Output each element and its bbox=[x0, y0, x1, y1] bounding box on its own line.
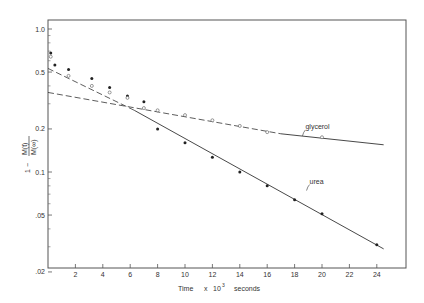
x-tick-label: 10 bbox=[181, 271, 189, 278]
x-label-exp: 3 bbox=[222, 282, 225, 288]
x-label-unit: seconds bbox=[234, 285, 261, 292]
x-tick-label: 18 bbox=[291, 271, 299, 278]
data-point bbox=[184, 114, 187, 117]
series-urea bbox=[48, 51, 384, 248]
data-point bbox=[53, 64, 56, 67]
series-glycerol bbox=[48, 55, 384, 145]
data-point bbox=[184, 141, 187, 144]
data-point bbox=[321, 136, 324, 139]
y-label-num: M(t) bbox=[21, 143, 29, 155]
data-point bbox=[156, 109, 159, 112]
x-tick-label: 12 bbox=[209, 271, 217, 278]
y-tick-label: .02 bbox=[35, 268, 45, 275]
x-tick-label: 2 bbox=[73, 271, 77, 278]
data-point bbox=[142, 100, 145, 103]
data-point bbox=[142, 107, 145, 110]
data-point bbox=[67, 74, 70, 77]
data-point bbox=[211, 156, 214, 159]
x-tick-label: 8 bbox=[156, 271, 160, 278]
y-tick-label: 0.1 bbox=[35, 169, 45, 176]
x-tick-label: 14 bbox=[236, 271, 244, 278]
data-point bbox=[156, 127, 159, 130]
data-series bbox=[48, 51, 384, 248]
x-tick-label: 4 bbox=[101, 271, 105, 278]
x-tick-label: 22 bbox=[346, 271, 354, 278]
data-point bbox=[90, 84, 93, 87]
data-point bbox=[238, 124, 241, 127]
chart: 24681012141618202224 1.00.50.20.1.05.02 … bbox=[0, 0, 424, 303]
y-label-den: M(∞) bbox=[30, 140, 38, 155]
data-point bbox=[67, 68, 70, 71]
annotation-urea: urea bbox=[310, 178, 324, 185]
data-point bbox=[321, 212, 324, 215]
x-tick-label: 16 bbox=[263, 271, 271, 278]
x-tick-label: 6 bbox=[128, 271, 132, 278]
y-axis-ticks: 1.00.50.20.1.05.02 bbox=[35, 26, 52, 276]
data-point bbox=[375, 243, 378, 246]
data-point bbox=[108, 86, 111, 89]
x-axis-ticks: 24681012141618202224 bbox=[73, 264, 380, 278]
y-tick-label: .05 bbox=[35, 212, 45, 219]
y-tick-label: 0.2 bbox=[35, 125, 45, 132]
x-tick-label: 24 bbox=[373, 271, 381, 278]
data-point bbox=[126, 96, 129, 99]
y-label-prefix: 1 − bbox=[24, 163, 31, 173]
data-point bbox=[266, 131, 269, 134]
data-point bbox=[211, 119, 214, 122]
y-tick-label: 1.0 bbox=[35, 26, 45, 33]
data-point bbox=[49, 55, 52, 58]
data-point bbox=[293, 198, 296, 201]
data-point bbox=[238, 171, 241, 174]
x-label-mult: x bbox=[204, 285, 208, 292]
x-axis-label: Time x 10 3 seconds bbox=[178, 282, 261, 292]
data-point bbox=[90, 77, 93, 80]
annotations: glycerolurea bbox=[302, 123, 330, 191]
plot-frame bbox=[48, 20, 406, 268]
data-point bbox=[49, 51, 52, 54]
x-label-main: Time bbox=[178, 285, 193, 292]
y-tick-label: 0.5 bbox=[35, 69, 45, 76]
y-axis-label: 1 − M(t) M(∞) bbox=[21, 136, 38, 173]
data-point bbox=[108, 91, 111, 94]
x-label-base: 10 bbox=[213, 285, 221, 292]
annotation-glycerol: glycerol bbox=[305, 123, 330, 131]
data-point bbox=[266, 184, 269, 187]
x-tick-label: 20 bbox=[318, 271, 326, 278]
